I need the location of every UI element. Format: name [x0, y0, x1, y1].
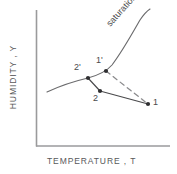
- x-axis-label: TEMPERATURE , T: [47, 156, 136, 166]
- axis-lines: [36, 10, 170, 147]
- psychrometric-chart-figure: TEMPERATURE , T HUMIDITY , Y saturation …: [0, 0, 177, 174]
- marker-point-2-prime: [86, 76, 90, 80]
- point-label-2-prime: 2': [74, 62, 81, 72]
- point-label-1: 1: [153, 97, 158, 107]
- chart-canvas: [0, 0, 177, 174]
- process-line-1p-1-dashed: [106, 71, 148, 104]
- marker-point-1-prime: [104, 69, 108, 73]
- y-axis-label: HUMIDITY , Y: [8, 37, 18, 117]
- point-label-2: 2: [93, 93, 98, 103]
- point-label-1-prime: 1': [96, 55, 103, 65]
- saturation-curve: [47, 9, 150, 92]
- marker-point-2: [98, 89, 102, 93]
- marker-point-1: [146, 102, 150, 106]
